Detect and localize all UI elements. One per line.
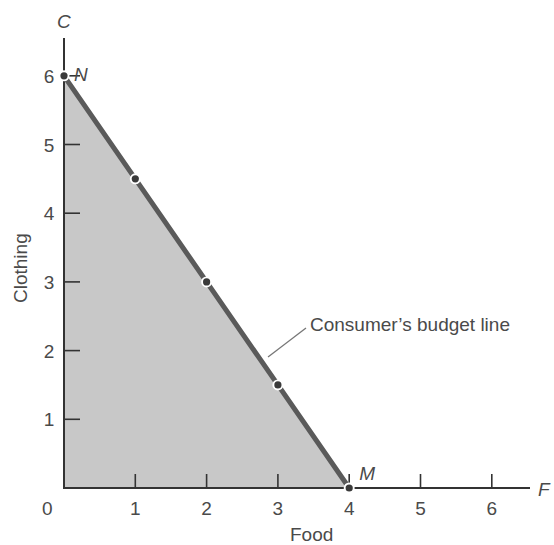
y-axis-letter: C [57, 11, 71, 32]
data-point [60, 72, 67, 79]
origin-label: 0 [42, 498, 53, 519]
x-tick-label: 2 [201, 498, 212, 519]
y-tick-label: 5 [44, 135, 55, 156]
y-tick-label: 2 [44, 341, 55, 362]
x-tick-label: 3 [273, 498, 284, 519]
point-label-n: N [74, 64, 88, 85]
annotation-leader-line [268, 328, 306, 357]
y-tick-label: 1 [44, 409, 55, 430]
x-axis-letter: F [538, 479, 551, 500]
y-tick-label: 4 [44, 203, 55, 224]
x-axis-title: Food [290, 524, 333, 545]
annotations: Consumer’s budget line [268, 314, 510, 357]
x-tick-label: 6 [487, 498, 498, 519]
x-tick-label: 4 [344, 498, 355, 519]
x-tick-label: 1 [130, 498, 141, 519]
y-axis-title: Clothing [10, 233, 31, 303]
budget-line-chart: 123456123456 NM Consumer’s budget line C… [0, 0, 554, 545]
data-point [274, 381, 281, 388]
annotation-budget-line: Consumer’s budget line [310, 314, 510, 335]
data-point [346, 484, 353, 491]
y-tick-label: 3 [44, 272, 55, 293]
point-label-m: M [359, 463, 375, 484]
y-tick-label: 6 [44, 66, 55, 87]
data-point [132, 175, 139, 182]
data-point [203, 278, 210, 285]
x-tick-label: 5 [415, 498, 426, 519]
